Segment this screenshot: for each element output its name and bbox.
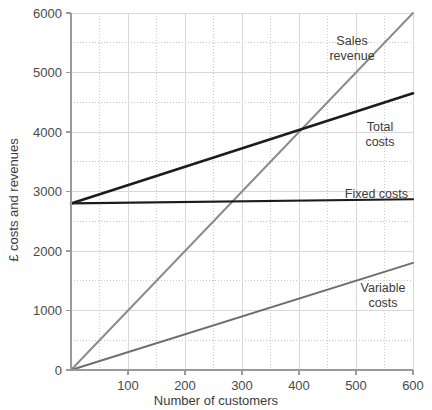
chart-container: 0100020003000400050006000100200300400500… xyxy=(0,0,432,410)
y-tick-label: 1000 xyxy=(33,303,62,318)
series-label-line1-sales-revenue: Sales xyxy=(336,34,367,48)
y-axis-title: £ costs and revenues xyxy=(6,138,21,262)
y-tick-label: 2000 xyxy=(33,244,62,259)
y-tick-label: 0 xyxy=(55,363,62,378)
x-tick-label: 500 xyxy=(345,378,367,393)
x-tick-label: 100 xyxy=(117,378,139,393)
series-label-line2-variable-costs: costs xyxy=(368,296,397,310)
y-tick-label: 4000 xyxy=(33,125,62,140)
series-label-line2-total-costs: costs xyxy=(365,135,394,149)
series-label-fixed-costs: Fixed costs xyxy=(345,187,408,201)
y-tick-label: 6000 xyxy=(33,6,62,21)
y-tick-label: 5000 xyxy=(33,65,62,80)
x-tick-label: 300 xyxy=(231,378,253,393)
series-label-line2-sales-revenue: revenue xyxy=(329,49,374,63)
x-tick-label: 200 xyxy=(174,378,196,393)
series-label-line1-total-costs: Total xyxy=(367,120,393,134)
series-label-line1-variable-costs: Variable xyxy=(361,281,406,295)
y-tick-label: 3000 xyxy=(33,184,62,199)
x-tick-label: 600 xyxy=(402,378,424,393)
series-label-line1-fixed-costs: Fixed costs xyxy=(345,187,408,201)
break-even-chart: 0100020003000400050006000100200300400500… xyxy=(0,0,432,410)
series-label-total-costs: Totalcosts xyxy=(365,120,394,149)
x-tick-label: 400 xyxy=(288,378,310,393)
x-axis-title: Number of customers xyxy=(154,393,279,408)
